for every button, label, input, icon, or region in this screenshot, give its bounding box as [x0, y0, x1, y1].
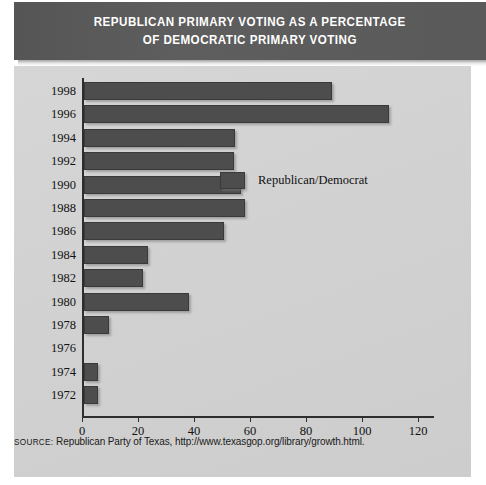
x-tick-mark-120	[418, 416, 419, 422]
y-tick-1990: 1990	[14, 176, 76, 194]
bar-row	[84, 152, 234, 170]
bar-row	[84, 82, 332, 100]
chart-title: REPUBLICAN PRIMARY VOTING AS A PERCENTAG…	[94, 13, 406, 49]
chart-title-line-1: REPUBLICAN PRIMARY VOTING AS A PERCENTAG…	[94, 15, 406, 29]
bar-row	[84, 176, 241, 194]
y-tick-1972: 1972	[14, 386, 76, 404]
bar-1978	[84, 316, 109, 334]
bar-1972	[84, 386, 98, 404]
x-tick-mark-40	[194, 416, 195, 422]
y-tick-1988: 1988	[14, 199, 76, 217]
bar-row	[84, 129, 235, 147]
chart-figure: REPUBLICAN PRIMARY VOTING AS A PERCENTAG…	[0, 0, 486, 485]
bar-row	[84, 199, 245, 217]
bar-1984	[84, 246, 148, 264]
x-tick-mark-100	[362, 416, 363, 422]
source-note: SOURCE: Republican Party of Texas, http:…	[14, 436, 471, 447]
bar-row	[84, 246, 148, 264]
x-axis-line	[82, 416, 434, 418]
bar-row	[84, 363, 98, 381]
y-tick-1976: 1976	[14, 339, 76, 357]
y-tick-1982: 1982	[14, 269, 76, 287]
bar-1988	[84, 199, 245, 217]
source-keyword: SOURCE:	[14, 438, 53, 447]
chart-legend: Republican/Democrat	[220, 172, 368, 189]
bar-1974	[84, 363, 98, 381]
y-tick-1974: 1974	[14, 363, 76, 381]
chart-title-banner: REPUBLICAN PRIMARY VOTING AS A PERCENTAG…	[14, 2, 486, 60]
y-tick-1998: 1998	[14, 82, 76, 100]
bar-row	[84, 316, 109, 334]
bar-row	[84, 386, 98, 404]
bar-1982	[84, 269, 143, 287]
bar-row	[84, 105, 389, 123]
bar-1980	[84, 293, 189, 311]
chart-panel: 1998199619941992199019881986198419821980…	[14, 66, 471, 477]
source-text: Republican Party of Texas, http://www.te…	[53, 436, 364, 447]
bar-1994	[84, 129, 235, 147]
bar-1998	[84, 82, 332, 100]
chart-title-line-2: OF DEMOCRATIC PRIMARY VOTING	[143, 33, 357, 47]
x-tick-mark-80	[306, 416, 307, 422]
y-tick-1996: 1996	[14, 105, 76, 123]
y-tick-1980: 1980	[14, 293, 76, 311]
bar-1992	[84, 152, 234, 170]
bar-row	[84, 269, 143, 287]
x-tick-mark-20	[138, 416, 139, 422]
x-tick-mark-0	[82, 416, 83, 422]
y-tick-1986: 1986	[14, 222, 76, 240]
bar-1990	[84, 176, 241, 194]
y-tick-1978: 1978	[14, 316, 76, 334]
bar-1986	[84, 222, 224, 240]
bar-row	[84, 293, 189, 311]
plot-area: 1998199619941992199019881986198419821980…	[14, 66, 471, 477]
legend-label: Republican/Democrat	[258, 173, 368, 188]
bar-1996	[84, 105, 389, 123]
y-tick-1984: 1984	[14, 246, 76, 264]
y-tick-1994: 1994	[14, 129, 76, 147]
y-tick-1992: 1992	[14, 152, 76, 170]
legend-swatch-icon	[220, 172, 245, 189]
bar-row	[84, 222, 224, 240]
x-tick-mark-60	[250, 416, 251, 422]
